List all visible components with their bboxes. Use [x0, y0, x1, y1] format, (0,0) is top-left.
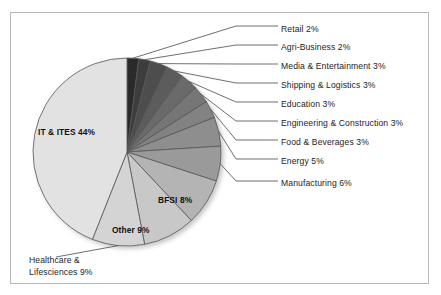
pie-label-manufacturing: Manufacturing 6% [281, 178, 352, 189]
pie-label-engineering-construction: Engineering & Construction 3% [281, 118, 403, 129]
pie-label-shipping-logistics: Shipping & Logistics 3% [281, 80, 376, 91]
leader-line [219, 132, 278, 160]
pie-label-retail: Retail 2% [281, 24, 319, 35]
pie-label-healthcare-line2: Lifesciences 9% [29, 267, 93, 277]
leader-line [145, 45, 278, 60]
leader-line [220, 164, 278, 181]
pie-label-healthcare-line1: Healthcare & [29, 255, 80, 265]
pie-label-agri-business: Agri-Business 2% [281, 42, 350, 53]
leader-line [133, 26, 278, 58]
pie-slices-group [33, 58, 221, 246]
pie-label-food-beverages: Food & Beverages 3% [281, 137, 369, 148]
pie-label-it-ites: IT & ITES 44% [38, 127, 95, 138]
pie-label-education: Education 3% [281, 99, 335, 110]
pie-label-other: Other 9% [112, 225, 150, 236]
pie-chart-canvas [0, 0, 441, 295]
pie-label-healthcare-lifesciences: Healthcare & Lifesciences 9% [29, 254, 139, 278]
leader-line [175, 71, 278, 83]
pie-label-bfsi: BFSI 8% [158, 195, 192, 206]
pie-label-media-entertainment: Media & Entertainment 3% [281, 61, 386, 72]
pie-label-energy: Energy 5% [281, 156, 324, 167]
